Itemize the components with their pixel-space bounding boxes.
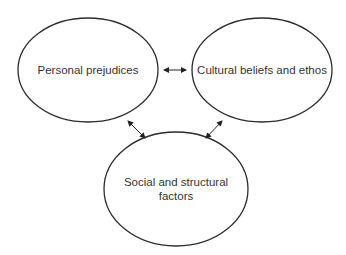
node-cultural-beliefs: Cultural beliefs and ethos: [192, 18, 332, 122]
node-label: Personal prejudices: [37, 64, 138, 76]
diagram-canvas: Personal prejudices Cultural beliefs and…: [0, 0, 346, 255]
node-social-structural: Social and structural factors: [104, 132, 248, 246]
ellipse-shape: [104, 132, 248, 246]
node-personal-prejudices: Personal prejudices: [18, 18, 158, 122]
arrow-cultural-social: [206, 121, 222, 138]
node-label-line-2: factors: [159, 190, 194, 202]
node-label-line-1: Social and structural: [124, 176, 228, 188]
node-label: Cultural beliefs and ethos: [197, 64, 327, 76]
arrow-personal-social: [128, 121, 145, 138]
